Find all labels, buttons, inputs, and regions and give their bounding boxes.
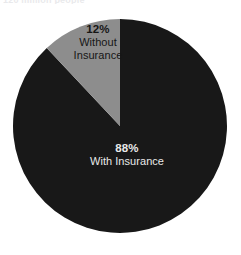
pie-label-without-insurance: 12% Without Insurance [52,23,144,62]
pie-label-with-insurance-name: With Insurance [62,155,192,168]
pie-label-without-insurance-percent: 12% [52,23,144,36]
pie-label-without-insurance-name-line2: Insurance [52,49,144,62]
pie-chart-figure: 120 million people 12% Without Insurance… [0,0,241,255]
pie-label-with-insurance: 88% With Insurance [62,142,192,168]
pie-label-without-insurance-name-line1: Without [52,36,144,49]
pie-label-with-insurance-percent: 88% [62,142,192,155]
